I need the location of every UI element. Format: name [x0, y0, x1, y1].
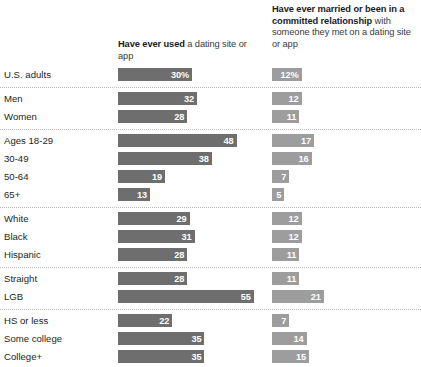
bar-ever-married: 14 [272, 332, 307, 345]
row-label: Some college [4, 332, 62, 345]
column-header-ever-used-emphasis: Have ever used [118, 39, 185, 49]
bar-ever-used: 13 [118, 188, 150, 201]
bar-ever-used: 32 [118, 92, 197, 105]
chart-row: Men3212 [0, 90, 421, 108]
bar-value-label: 7 [281, 316, 286, 326]
bar-value-label: 12% [281, 70, 299, 80]
bar-ever-married: 12 [272, 230, 302, 243]
chart-row: White2912 [0, 210, 421, 228]
row-label: Hispanic [4, 248, 41, 261]
chart-row: Straight2811 [0, 270, 421, 288]
bar-ever-married: 7 [272, 170, 289, 183]
bar-value-label: 31 [182, 232, 192, 242]
row-label: LGB [4, 290, 23, 303]
bar-ever-married: 12 [272, 92, 302, 105]
chart-row: Black3112 [0, 228, 421, 246]
bar-ever-married: 15 [272, 350, 309, 363]
row-label: White [4, 212, 29, 225]
bar-value-label: 14 [294, 334, 304, 344]
row-group-education: HS or less227Some college3514College+351… [0, 309, 421, 366]
bar-value-label: 12 [289, 214, 299, 224]
bar-value-label: 35 [191, 352, 201, 362]
row-label: Black [4, 230, 27, 243]
bar-value-label: 5 [276, 190, 281, 200]
bar-value-label: 28 [174, 112, 184, 122]
bar-ever-used: 28 [118, 110, 187, 123]
bar-ever-used: 35 [118, 350, 204, 363]
bar-ever-used: 19 [118, 170, 165, 183]
chart-row: 65+135 [0, 186, 421, 204]
row-group-age: Ages 18-29481730-49381650-6419765+135 [0, 129, 421, 204]
row-label: Men [4, 92, 23, 105]
bar-value-label: 12 [289, 232, 299, 242]
bar-value-label: 48 [224, 136, 234, 146]
row-group-all-adults: U.S. adults30%12% [0, 66, 421, 84]
row-label: Women [4, 110, 37, 123]
bar-ever-used: 29 [118, 212, 190, 225]
bar-value-label: 35 [191, 334, 201, 344]
bar-value-label: 17 [301, 136, 311, 146]
row-group-sexual-orientation: Straight2811LGB5521 [0, 267, 421, 306]
bar-value-label: 11 [287, 274, 297, 284]
bar-value-label: 28 [174, 250, 184, 260]
row-label: Straight [4, 272, 37, 285]
bar-ever-used: 38 [118, 152, 212, 165]
bar-value-label: 21 [311, 292, 321, 302]
bar-ever-used: 28 [118, 272, 187, 285]
bar-ever-used: 31 [118, 230, 195, 243]
chart-row: Hispanic2811 [0, 246, 421, 264]
bar-value-label: 30% [171, 70, 189, 80]
bar-value-label: 15 [296, 352, 306, 362]
bar-ever-married: 11 [272, 110, 299, 123]
chart-row: Women2811 [0, 108, 421, 126]
bar-ever-married: 12 [272, 212, 302, 225]
bar-value-label: 16 [298, 154, 308, 164]
bar-value-label: 11 [287, 250, 297, 260]
bar-ever-married: 16 [272, 152, 312, 165]
bar-ever-married: 7 [272, 314, 289, 327]
bar-value-label: 11 [287, 112, 297, 122]
row-label: 50-64 [4, 170, 29, 183]
bar-ever-used: 35 [118, 332, 204, 345]
bar-ever-used: 22 [118, 314, 172, 327]
row-label: HS or less [4, 314, 48, 327]
bar-value-label: 22 [159, 316, 169, 326]
row-label: Ages 18-29 [4, 134, 53, 147]
chart-row: U.S. adults30%12% [0, 66, 421, 84]
chart-row: 50-64197 [0, 168, 421, 186]
chart-row: LGB5521 [0, 288, 421, 306]
bar-ever-married: 11 [272, 272, 299, 285]
column-header-ever-married: Have ever married or been in a committed… [272, 4, 418, 50]
bar-value-label: 32 [184, 94, 194, 104]
chart-row: Some college3514 [0, 330, 421, 348]
chart-rows: U.S. adults30%12%Men3212Women2811Ages 18… [0, 64, 421, 367]
row-group-race: White2912Black3112Hispanic2811 [0, 207, 421, 264]
bar-value-label: 28 [174, 274, 184, 284]
bar-ever-used: 48 [118, 134, 237, 147]
row-group-gender: Men3212Women2811 [0, 87, 421, 126]
bar-ever-used: 28 [118, 248, 187, 261]
bar-ever-married: 21 [272, 290, 324, 303]
bar-value-label: 38 [199, 154, 209, 164]
bar-value-label: 7 [281, 172, 286, 182]
bar-ever-married: 12% [272, 68, 302, 81]
chart-row: Ages 18-294817 [0, 132, 421, 150]
bar-ever-used: 55 [118, 290, 254, 303]
bar-value-label: 55 [241, 292, 251, 302]
chart-row: 30-493816 [0, 150, 421, 168]
bar-value-label: 12 [289, 94, 299, 104]
chart-row: College+3515 [0, 348, 421, 366]
bar-ever-married: 11 [272, 248, 299, 261]
bar-value-label: 13 [137, 190, 147, 200]
row-label: 65+ [4, 188, 20, 201]
bar-ever-married: 5 [272, 188, 284, 201]
row-label: College+ [4, 350, 42, 363]
bar-value-label: 19 [152, 172, 162, 182]
column-headers: Have ever used a dating site or app Have… [0, 0, 421, 64]
chart-row: HS or less227 [0, 312, 421, 330]
column-header-ever-used: Have ever used a dating site or app [118, 39, 258, 62]
row-label: U.S. adults [4, 68, 51, 81]
bar-ever-married: 17 [272, 134, 314, 147]
bar-value-label: 29 [177, 214, 187, 224]
